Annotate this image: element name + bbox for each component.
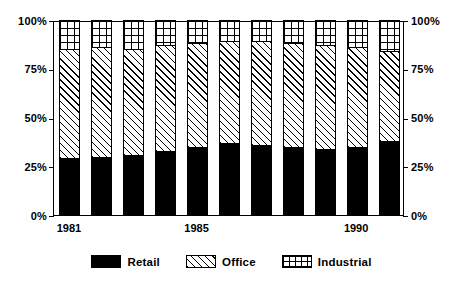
- y-axis-tick-label-right: 50%: [411, 113, 434, 124]
- solid-black-swatch: [91, 255, 121, 268]
- bar-segment-industrial: [283, 20, 304, 43]
- bar-1988: [283, 20, 304, 215]
- bar-segment-industrial: [219, 20, 240, 41]
- bar-segment-industrial: [315, 20, 336, 45]
- y-axis-tick-label-left: 100%: [18, 16, 47, 27]
- plot-area: [53, 21, 404, 216]
- bar-segment-office: [91, 47, 112, 156]
- bar-segment-office: [379, 51, 400, 141]
- stacked-bar-chart: 100%75%50%25%0% 100%75%50%25%0% 19811985…: [0, 0, 463, 290]
- bar-segment-retail: [123, 155, 144, 215]
- bar-1989: [315, 20, 336, 215]
- bar-1991: [379, 20, 400, 215]
- x-axis-tick-label: 1990: [334, 222, 378, 234]
- bar-1981: [59, 20, 80, 215]
- bar-1985: [187, 20, 208, 215]
- bar-segment-office: [187, 43, 208, 146]
- y-axis-tick-label-right: 25%: [411, 162, 434, 173]
- bar-segment-retail: [155, 151, 176, 215]
- bar-segment-office: [283, 43, 304, 146]
- bar-segment-retail: [187, 147, 208, 215]
- bar-1990: [347, 20, 368, 215]
- y-axis-tick-label-right: 75%: [411, 64, 434, 75]
- bar-segment-office: [219, 41, 240, 142]
- bar-1984: [155, 20, 176, 215]
- legend-item-office[interactable]: Office: [186, 255, 256, 268]
- bar-segment-industrial: [155, 20, 176, 45]
- bar-segment-industrial: [251, 20, 272, 41]
- bar-segment-office: [347, 47, 368, 146]
- y-axis-tick-label-left: 25%: [24, 162, 47, 173]
- bar-segment-industrial: [91, 20, 112, 47]
- bar-segment-industrial: [187, 20, 208, 43]
- y-axis-tick-mark-right: [403, 216, 408, 217]
- bar-1986: [219, 20, 240, 215]
- legend-label: Retail: [127, 256, 160, 268]
- bar-segment-retail: [251, 145, 272, 215]
- bar-segment-retail: [379, 141, 400, 215]
- bar-segment-retail: [315, 149, 336, 215]
- y-axis-tick-label-right: 100%: [411, 16, 440, 27]
- y-axis-tick-mark-left: [49, 216, 54, 217]
- bar-segment-office: [315, 45, 336, 148]
- bar-segment-retail: [283, 147, 304, 215]
- legend-label: Office: [222, 256, 256, 268]
- bar-segment-industrial: [379, 20, 400, 51]
- bar-segment-industrial: [123, 20, 144, 49]
- y-axis-tick-label-left: 0%: [31, 211, 47, 222]
- bar-segment-retail: [347, 147, 368, 215]
- plot-inner: [54, 22, 403, 215]
- x-axis-tick-label: 1981: [47, 222, 91, 234]
- bar-segment-office: [123, 49, 144, 154]
- bar-segment-retail: [91, 157, 112, 216]
- bar-1983: [123, 20, 144, 215]
- x-axis-tick-label: 1985: [175, 222, 219, 234]
- y-axis-tick-label-left: 75%: [24, 64, 47, 75]
- legend-item-industrial[interactable]: Industrial: [282, 255, 372, 268]
- bar-segment-office: [59, 49, 80, 158]
- bar-segment-office: [251, 41, 272, 144]
- bar-1987: [251, 20, 272, 215]
- bar-segment-retail: [59, 158, 80, 215]
- y-axis-tick-label-left: 50%: [24, 113, 47, 124]
- y-axis-tick-label-right: 0%: [411, 211, 427, 222]
- bar-1982: [91, 20, 112, 215]
- diagonal-hatch-swatch: [186, 255, 216, 268]
- legend-label: Industrial: [318, 256, 372, 268]
- bar-segment-industrial: [347, 20, 368, 47]
- bar-segment-industrial: [59, 20, 80, 49]
- legend-item-retail[interactable]: Retail: [91, 255, 160, 268]
- cross-hatch-swatch: [282, 255, 312, 268]
- bar-segment-retail: [219, 143, 240, 215]
- chart-legend: RetailOfficeIndustrial: [0, 255, 463, 268]
- bar-segment-office: [155, 45, 176, 150]
